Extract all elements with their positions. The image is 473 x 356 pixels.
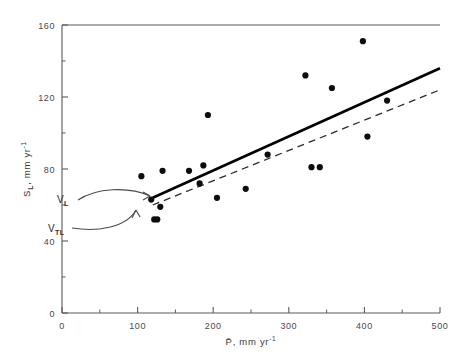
x-tick-label: 0 xyxy=(59,321,65,331)
y-axis-title-rest: , mm yr xyxy=(21,148,32,185)
data-point xyxy=(360,38,366,44)
x-axis-title-sup: -1 xyxy=(269,335,276,342)
data-point xyxy=(243,186,249,192)
data-point xyxy=(317,164,323,170)
data-point xyxy=(308,164,314,170)
data-point xyxy=(214,195,220,201)
y-tick-label: 0 xyxy=(49,309,55,319)
x-tick-label: 200 xyxy=(205,321,222,331)
data-point xyxy=(364,134,370,140)
data-point xyxy=(329,85,335,91)
x-tick-label: 400 xyxy=(356,321,373,331)
y-tick-label: 40 xyxy=(44,237,55,247)
y-axis-tick-labels: 04080120160 xyxy=(38,21,55,319)
data-point xyxy=(302,72,308,78)
y-tick-label: 80 xyxy=(44,165,55,175)
data-point xyxy=(154,216,160,222)
x-axis-title: P̄, mm yr-1 xyxy=(226,335,277,347)
arrow-curve-vl xyxy=(78,190,150,200)
annotation-vtl-sub: TL xyxy=(55,229,65,236)
annotation-vl-sub: L xyxy=(64,200,69,207)
data-point xyxy=(200,162,206,168)
data-point xyxy=(384,98,390,104)
regression-line-v-l xyxy=(153,68,440,198)
annotation-arrows xyxy=(72,190,150,230)
y-axis-title: SL, mm yr-1 xyxy=(20,141,34,197)
y-axis-title-base: S xyxy=(21,190,32,197)
regression-lines xyxy=(153,68,440,205)
data-point xyxy=(265,152,271,158)
y-axis-title-sup: -1 xyxy=(20,141,27,148)
data-point-series xyxy=(138,38,390,222)
x-axis-title-text: P̄, mm yr xyxy=(226,336,270,347)
annotation-vl-base: V xyxy=(57,194,64,205)
data-point xyxy=(157,204,163,210)
scatter-chart-figure: 0100200300400500 04080120160 VL VTL P̄, … xyxy=(0,0,473,356)
axis-lines xyxy=(62,25,440,313)
y-tick-label: 160 xyxy=(38,21,55,31)
x-tick-label: 100 xyxy=(129,321,146,331)
x-axis-tick-labels: 0100200300400500 xyxy=(59,321,448,331)
annotation-vtl-base: V xyxy=(48,223,55,234)
x-tick-label: 300 xyxy=(280,321,297,331)
data-point xyxy=(186,168,192,174)
arrow-curve-vtl xyxy=(72,210,136,229)
data-point xyxy=(138,173,144,179)
y-axis-major-ticks xyxy=(62,25,68,313)
data-point xyxy=(196,180,202,186)
x-tick-label: 500 xyxy=(432,321,449,331)
data-point xyxy=(205,112,211,118)
regression-line-v-tl xyxy=(153,90,440,205)
data-point xyxy=(159,168,165,174)
data-point xyxy=(148,197,154,203)
y-tick-label: 120 xyxy=(38,93,55,103)
